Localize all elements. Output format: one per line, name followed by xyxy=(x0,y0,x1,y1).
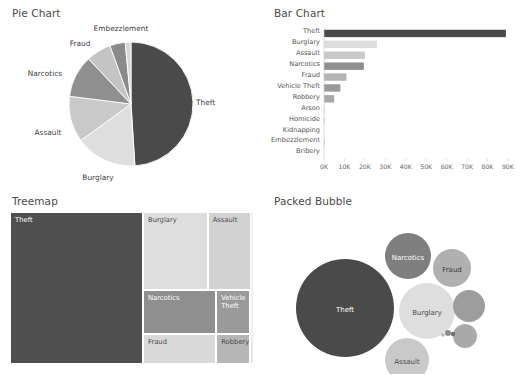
bar-category-fraud: Fraud xyxy=(302,71,320,79)
pie-chart-panel: Pie Chart TheftBurglaryAssaultNarcoticsF… xyxy=(0,0,262,188)
bar-category-narcotics: Narcotics xyxy=(289,60,320,68)
bubble-circle-group[interactable] xyxy=(296,233,485,374)
bar-category-embezzlement: Embezzlement xyxy=(271,136,320,144)
bubble-label-burglary: Burglary xyxy=(412,309,442,317)
bar-xtick-label-50K: 50K xyxy=(420,163,433,170)
packed-bubble-title: Packed Bubble xyxy=(274,195,352,207)
treemap-label-narcotics: Narcotics xyxy=(148,294,180,302)
treemap-cell-fraud[interactable]: Fraud xyxy=(143,334,216,364)
packed-bubble-plot: TheftNarcoticsFraudBurglaryAssault xyxy=(262,208,524,374)
bar-xtick-label-10K: 10K xyxy=(338,163,351,170)
treemap-label-vehicle-theft: Vehicle Theft xyxy=(221,294,245,310)
bar-category-bribery: Bribery xyxy=(296,147,320,155)
bar-xtick-label-40K: 40K xyxy=(400,163,413,170)
bar-xtick-label-70K: 70K xyxy=(461,163,474,170)
bar-category-kidnapping: Kidnapping xyxy=(283,126,320,134)
bar-chart-panel: Bar Chart TheftBurglaryAssaultNarcoticsF… xyxy=(262,0,524,188)
bar-category-labels: TheftBurglaryAssaultNarcoticsFraudVehicl… xyxy=(271,27,320,155)
pie-label-fraud: Fraud xyxy=(70,39,91,48)
bar-category-robbery: Robbery xyxy=(293,93,320,101)
pie-slice-group[interactable] xyxy=(69,42,193,166)
pie-svg: TheftBurglaryAssaultNarcoticsFraudEmbezz… xyxy=(0,20,262,186)
treemap-plot[interactable]: TheftBurglaryAssaultNarcoticsVehicle The… xyxy=(10,212,254,364)
bar-category-vehicle-theft: Vehicle Theft xyxy=(277,82,320,90)
bubble-label-theft: Theft xyxy=(335,306,354,314)
treemap-cell-assault[interactable]: Assault xyxy=(208,212,254,290)
bar-category-assault: Assault xyxy=(296,49,320,57)
bubble-kidnapping[interactable] xyxy=(441,333,445,337)
bar-rect-group[interactable] xyxy=(324,30,506,146)
bar-category-homicide: Homicide xyxy=(289,115,320,123)
treemap-title: Treemap xyxy=(12,195,58,207)
bar-xtick-label-30K: 30K xyxy=(379,163,392,170)
bar-narcotics[interactable] xyxy=(324,62,364,69)
pie-label-narcotics: Narcotics xyxy=(28,69,63,78)
treemap-cell-small-8[interactable] xyxy=(250,212,254,334)
treemap-cell-burglary[interactable]: Burglary xyxy=(143,212,208,290)
bar-category-arson: Arson xyxy=(301,104,320,112)
treemap-cell-robbery[interactable]: Robbery xyxy=(216,334,250,364)
treemap-label-robbery: Robbery xyxy=(221,338,249,346)
treemap-panel: Treemap TheftBurglaryAssaultNarcoticsVeh… xyxy=(0,188,262,375)
bar-vehicle-theft[interactable] xyxy=(324,84,340,91)
bar-chart-plot: TheftBurglaryAssaultNarcoticsFraudVehicl… xyxy=(262,22,524,186)
treemap-label-assault: Assault xyxy=(213,216,238,224)
bar-category-theft: Theft xyxy=(302,27,320,35)
treemap-label-theft: Theft xyxy=(15,216,33,224)
pie-label-assault: Assault xyxy=(35,128,62,137)
bubble-homicide[interactable] xyxy=(451,332,455,336)
treemap-cell-vehicle-theft[interactable]: Vehicle Theft xyxy=(216,290,250,334)
bar-xtick-label-0K: 0K xyxy=(320,163,329,170)
bar-theft[interactable] xyxy=(324,30,506,37)
bubble-assault[interactable] xyxy=(385,338,429,374)
pie-label-burglary: Burglary xyxy=(82,173,114,182)
bubble-label-assault: Assault xyxy=(394,358,420,366)
bar-xtick-label-90K: 90K xyxy=(502,163,515,170)
bar-tick-labels: 0K10K20K30K40K50K60K70K80K90K xyxy=(320,163,515,170)
bar-robbery[interactable] xyxy=(324,95,334,102)
bubble-arson[interactable] xyxy=(445,330,451,336)
bubble-robbery[interactable] xyxy=(453,324,477,348)
treemap-cell-small-7[interactable] xyxy=(250,334,254,364)
bubble-vehicle-theft[interactable] xyxy=(453,290,485,322)
pie-label-embezzlement: Embezzlement xyxy=(94,24,149,33)
pie-slice-theft[interactable] xyxy=(131,42,193,166)
bar-xtick-label-80K: 80K xyxy=(482,163,495,170)
treemap-cell-narcotics[interactable]: Narcotics xyxy=(143,290,216,334)
bar-assault[interactable] xyxy=(324,52,365,59)
pie-label-theft: Theft xyxy=(195,98,215,107)
charts-dashboard: Pie Chart TheftBurglaryAssaultNarcoticsF… xyxy=(0,0,524,375)
treemap-cell-theft[interactable]: Theft xyxy=(10,212,143,364)
treemap-label-fraud: Fraud xyxy=(148,338,167,346)
pie-chart-title: Pie Chart xyxy=(12,7,61,19)
bubble-label-fraud: Fraud xyxy=(442,266,462,274)
bar-xtick-label-20K: 20K xyxy=(359,163,372,170)
bar-xtick-label-60K: 60K xyxy=(441,163,454,170)
packed-bubble-panel: Packed Bubble TheftNarcoticsFraudBurglar… xyxy=(262,188,524,375)
bar-fraud[interactable] xyxy=(324,73,346,80)
bar-burglary[interactable] xyxy=(324,41,377,48)
bubble-label-narcotics: Narcotics xyxy=(392,254,425,262)
treemap-label-burglary: Burglary xyxy=(148,216,177,224)
bar-svg: TheftBurglaryAssaultNarcoticsFraudVehicl… xyxy=(262,22,524,186)
bar-category-burglary: Burglary xyxy=(292,38,320,46)
bubble-svg: TheftNarcoticsFraudBurglaryAssault xyxy=(262,208,524,374)
bar-chart-title: Bar Chart xyxy=(274,7,325,19)
pie-chart-plot: TheftBurglaryAssaultNarcoticsFraudEmbezz… xyxy=(0,20,262,186)
